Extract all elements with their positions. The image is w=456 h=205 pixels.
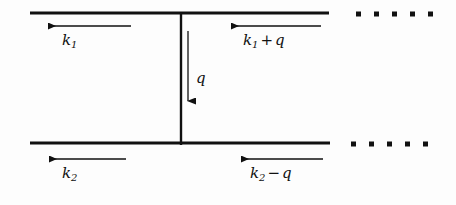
label-q: q — [196, 71, 206, 86]
label-k2minusq-second: q — [282, 164, 292, 182]
label-k2-minus-q: k2−q — [250, 166, 292, 181]
label-k1-subscript: 1 — [71, 39, 77, 50]
ellipsis-dot — [351, 142, 356, 147]
ellipsis-dot — [410, 12, 415, 17]
label-k2-subscript: 2 — [71, 172, 77, 183]
label-k1: k1 — [62, 33, 77, 48]
label-k2minusq-subscript: 2 — [259, 172, 265, 183]
ellipsis-dot — [387, 142, 392, 147]
label-k1plusq-second: q — [275, 31, 285, 49]
ellipsis-dot — [405, 142, 410, 147]
label-k2: k2 — [62, 166, 77, 181]
ellipsis-dot — [374, 12, 379, 17]
label-k1plusq-base: k — [243, 31, 252, 49]
label-k1plusq-subscript: 1 — [252, 39, 258, 50]
label-k1-plus-q: k1+q — [243, 33, 285, 48]
label-k2minusq-operator: − — [265, 164, 282, 182]
ellipsis-dot — [428, 12, 433, 17]
ellipsis-dot — [423, 142, 428, 147]
label-q-base: q — [196, 69, 206, 87]
ellipsis-dot — [356, 12, 361, 17]
feynman-diagram-canvas: k1 k1+q q k2 k2−q — [0, 0, 456, 205]
top-ellipsis-dots — [356, 12, 433, 17]
label-k1-base: k — [62, 31, 71, 49]
ellipsis-dot — [392, 12, 397, 17]
label-k2minusq-base: k — [250, 164, 259, 182]
bottom-ellipsis-dots — [351, 142, 428, 147]
ellipsis-dot — [369, 142, 374, 147]
label-k1plusq-operator: + — [258, 31, 275, 49]
label-k2-base: k — [62, 164, 71, 182]
